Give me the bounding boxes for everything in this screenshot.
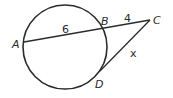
point-label-d: D: [95, 78, 103, 91]
circle: [23, 5, 107, 89]
segment-label-ab: 6: [62, 23, 69, 36]
geometry-diagram: A B C D 6 4 x: [0, 0, 173, 98]
point-label-b: B: [101, 15, 109, 28]
segment-label-cd: x: [130, 47, 137, 60]
segment-label-bc: 4: [124, 12, 131, 25]
point-label-a: A: [11, 38, 20, 51]
point-label-c: C: [153, 14, 161, 27]
